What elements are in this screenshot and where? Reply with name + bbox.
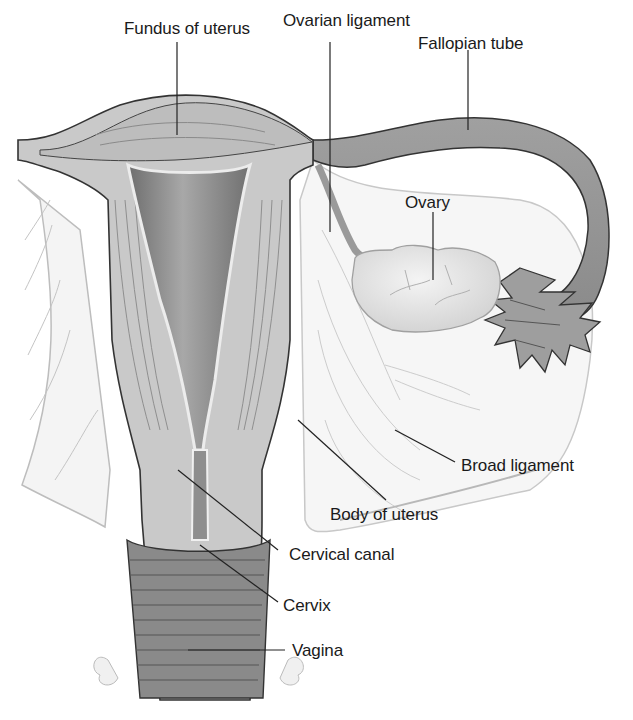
label-body-of-uterus: Body of uterus [330,506,438,523]
label-cervix: Cervix [283,597,331,614]
label-broad-ligament: Broad ligament [461,457,574,474]
broad-ligament-left [18,180,110,527]
label-ovarian-ligament: Ovarian ligament [283,12,410,29]
ovary [352,245,500,331]
label-vagina: Vagina [292,642,343,659]
label-cervical-canal: Cervical canal [289,546,394,563]
label-fundus-of-uterus: Fundus of uterus [124,20,250,37]
caption-cropped [0,712,633,720]
cervical-canal [192,450,208,540]
vagina [94,540,304,698]
anatomy-figure: Fundus of uterus Ovarian ligament Fallop… [0,0,633,720]
label-ovary: Ovary [405,194,450,211]
label-fallopian-tube: Fallopian tube [418,35,523,52]
